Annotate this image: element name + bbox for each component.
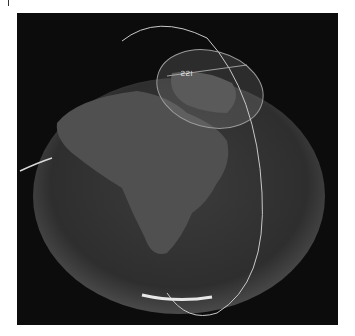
- satellite-label: ISS: [180, 70, 192, 78]
- corner-mark: [8, 0, 9, 6]
- globe-panel: ISS: [17, 13, 338, 325]
- globe-graphic: [17, 13, 338, 325]
